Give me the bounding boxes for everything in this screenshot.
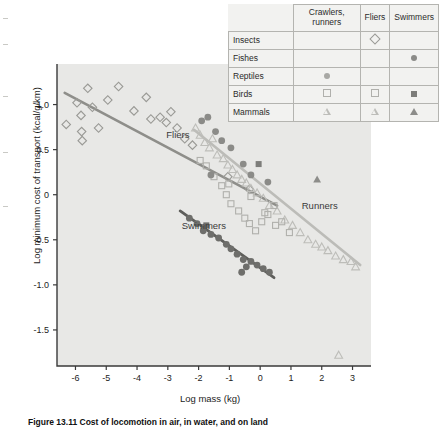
circle-mid-point: [212, 128, 219, 135]
legend-cell-swimmers: [390, 32, 439, 50]
x-tick-label: -6: [71, 373, 79, 383]
triangle-open-marker-icon: [323, 108, 331, 115]
square-open-marker-icon: [371, 89, 379, 97]
circle-filled-marker-icon: [411, 55, 417, 61]
circle-dark-point: [234, 251, 241, 258]
circle-mid-point: [228, 144, 235, 151]
legend-cell-crawlers-runners: [294, 86, 361, 104]
legend-cell-crawlers-runners: [294, 50, 361, 68]
legend-row: Insects: [229, 32, 439, 50]
legend-column-header-0: [229, 5, 294, 32]
circle-mid-point: [240, 161, 247, 168]
circle-mid-point: [198, 117, 205, 124]
legend-row: Mammals: [229, 104, 439, 122]
figure-caption: Figure 13.11 Cost of locomotion in air, …: [28, 417, 428, 427]
legend-row-label-insects: Insects: [229, 32, 294, 50]
x-tick-label: -2: [195, 373, 203, 383]
square-open-marker-icon: [323, 89, 331, 97]
legend-cell-fliers: [360, 50, 390, 68]
group-label-swimmers: Swimmers: [182, 220, 227, 231]
group-label-runners: Runners: [302, 200, 338, 211]
group-label-fliers: Fliers: [166, 129, 189, 140]
legend-row: Fishes: [229, 50, 439, 68]
legend-cell-crawlers-runners: [294, 104, 361, 122]
circle-mid-point: [264, 179, 271, 186]
x-tick-label: -3: [164, 373, 172, 383]
diamond-open-marker-icon: [369, 33, 380, 44]
circle-dark-point: [228, 245, 235, 252]
circle-dark-point: [260, 265, 267, 272]
legend-column-header-2: Fliers: [360, 5, 390, 32]
legend-cell-fliers: [360, 104, 390, 122]
legend-row-label-birds: Birds: [229, 86, 294, 104]
legend-cell-swimmers: [390, 68, 439, 86]
legend-cell-crawlers-runners: [294, 32, 361, 50]
legend-cell-crawlers-runners: [294, 68, 361, 86]
circle-dark-point: [208, 231, 215, 238]
legend-cell-fliers: [360, 68, 390, 86]
circle-marker-icon: [324, 73, 330, 79]
circle-dark-point: [243, 263, 250, 270]
legend-column-header-1: Crawlers, runners: [294, 5, 361, 32]
square-fill-point: [256, 161, 262, 167]
x-tick-label: -1: [225, 373, 233, 383]
legend-row: Birds: [229, 86, 439, 104]
y-tick-label: 0: [44, 190, 49, 200]
legend-cell-fliers: [360, 32, 390, 50]
triangle-open-marker-icon: [371, 108, 379, 115]
x-tick-label: 0: [258, 373, 263, 383]
x-tick-label: 2: [319, 373, 324, 383]
x-axis-title: Log mass (kg): [120, 393, 300, 404]
x-tick-label: -5: [102, 373, 110, 383]
square-filled-marker-icon: [411, 91, 417, 97]
series-runners-birds-filled: [256, 161, 262, 167]
legend-row-label-mammals: Mammals: [229, 104, 294, 122]
circle-mid-point: [204, 114, 211, 121]
legend-cell-swimmers: [390, 50, 439, 68]
y-tick-label: -1.5: [33, 325, 49, 335]
circle-dark-point: [266, 269, 273, 276]
circle-dark-point: [240, 256, 247, 263]
legend-row: Reptiles: [229, 68, 439, 86]
x-tick-label: 1: [288, 373, 293, 383]
legend-cell-fliers: [360, 86, 390, 104]
y-axis-title: Log minimum cost of transport (kcal/g/km…: [31, 56, 42, 296]
circle-dark-point: [215, 235, 222, 242]
triangle-filled-marker-icon: [410, 108, 418, 115]
figure-root: -6-5-4-3-2-101231.00.50-0.5-1.0-1.5 Flie…: [0, 0, 443, 427]
circle-mid-point: [208, 171, 215, 178]
legend-row-label-reptiles: Reptiles: [229, 68, 294, 86]
x-tick-label: 3: [350, 373, 355, 383]
circle-dark-point: [254, 262, 261, 269]
circle-mid-point: [248, 171, 255, 178]
legend-header-row: Crawlers, runnersFliersSwimmers: [229, 5, 439, 32]
circle-mid-point: [218, 137, 225, 144]
legend-row-label-fishes: Fishes: [229, 50, 294, 68]
x-tick-label: -4: [133, 373, 141, 383]
circle-dark-point: [238, 269, 245, 276]
circle-dark-point: [248, 258, 255, 265]
locomotion-mode-legend: Crawlers, runnersFliersSwimmersInsectsFi…: [228, 4, 439, 122]
legend-cell-swimmers: [390, 86, 439, 104]
legend-cell-swimmers: [390, 104, 439, 122]
legend-column-header-3: Swimmers: [390, 5, 439, 32]
